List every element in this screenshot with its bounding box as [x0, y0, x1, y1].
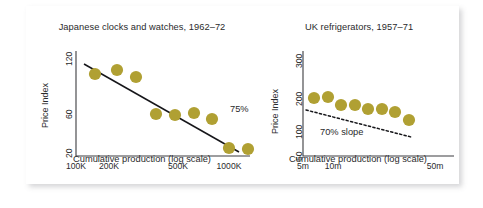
data-point [335, 99, 347, 111]
slope-annotation-left: 75% [230, 104, 249, 114]
data-point [130, 71, 142, 83]
figure-card-inner: Japanese clocks and watches, 1962–72 Pri… [26, 6, 459, 184]
chart-panel-uk-refrigerators: UK refrigerators, 1957–71 Price Index 30… [258, 6, 459, 184]
data-point [89, 68, 101, 80]
figure-root: Japanese clocks and watches, 1962–72 Pri… [0, 0, 483, 208]
x-axis-label-left: Cumulative production (log scale) [36, 154, 248, 164]
data-point [322, 91, 334, 103]
data-point [349, 99, 361, 111]
data-point [308, 92, 320, 104]
x-axis-label-right: Cumulative production (log scale) [262, 154, 454, 164]
data-point [111, 64, 123, 76]
data-point [376, 103, 388, 115]
slope-annotation-right: 70% slope [320, 127, 363, 137]
data-point [389, 106, 401, 118]
data-point [169, 109, 181, 121]
data-point [223, 142, 235, 154]
data-point [188, 107, 200, 119]
figure-card: Japanese clocks and watches, 1962–72 Pri… [26, 6, 459, 184]
axis-lines-right [303, 51, 454, 156]
trendline-left [84, 64, 239, 152]
chart-panel-japanese-clocks: Japanese clocks and watches, 1962–72 Pri… [26, 6, 258, 184]
data-point [206, 113, 218, 125]
axis-lines-left [76, 51, 250, 156]
data-point [150, 108, 162, 120]
data-point [403, 114, 415, 126]
data-point [362, 103, 374, 115]
